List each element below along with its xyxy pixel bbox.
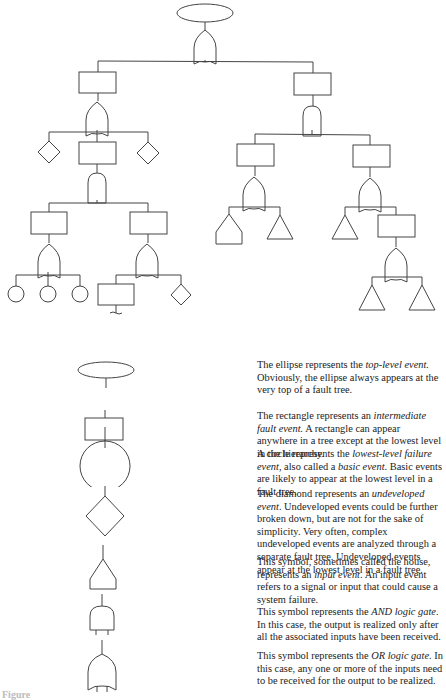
- legend-text-house: This symbol, sometimes called the house,…: [257, 556, 443, 606]
- diamond-icon: [60, 486, 160, 546]
- undeveloped-event-diamond: [38, 141, 60, 163]
- house-input-event: [216, 214, 242, 244]
- or-gate-icon: [60, 640, 160, 695]
- or-gate-icon: [194, 30, 216, 64]
- legend-text-and-gate: This symbol represents the AND logic gat…: [257, 606, 443, 644]
- top-event-ellipse: [177, 4, 233, 22]
- ellipse-icon: [60, 358, 160, 410]
- fault-tree-diagram: [0, 0, 446, 360]
- intermediate-event-rectangle: [79, 72, 116, 93]
- figure-caption: Figure: [2, 689, 30, 700]
- and-gate-icon: [88, 173, 106, 203]
- legend-text-or-gate: This symbol represents the OR logic gate…: [257, 650, 443, 688]
- basic-event-circle: [8, 286, 24, 302]
- and-gate-icon: [60, 594, 160, 644]
- transfer-triangle: [267, 215, 293, 239]
- legend-text-ellipse: The ellipse represents the top-level eve…: [257, 359, 443, 397]
- house-icon: [60, 545, 160, 595]
- circle-icon: [60, 427, 160, 487]
